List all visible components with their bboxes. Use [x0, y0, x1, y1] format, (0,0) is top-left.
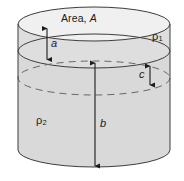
- dimension-label-b: b: [100, 118, 106, 129]
- dimension-label-a: a: [51, 38, 57, 49]
- rho1-subscript: 1: [158, 34, 162, 43]
- density-label-rho1: ρ1: [152, 31, 163, 43]
- area-label-prefix: Area,: [61, 12, 90, 24]
- area-label-symbol: A: [90, 12, 97, 24]
- dimension-label-c: c: [139, 69, 145, 80]
- rho2-subscript: 2: [42, 118, 46, 127]
- diagram-canvas: [0, 0, 184, 181]
- area-label: Area, A: [61, 13, 97, 24]
- density-label-rho2: ρ2: [36, 115, 47, 127]
- cylinder-fluid-diagram: Area, A ρ1 ρ2 a b c: [0, 0, 184, 181]
